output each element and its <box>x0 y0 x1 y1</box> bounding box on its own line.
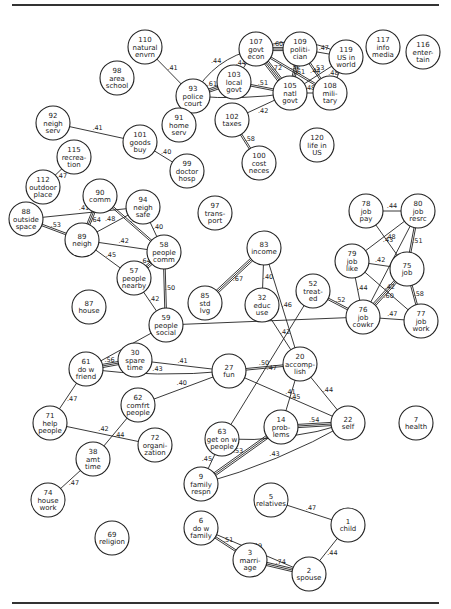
node-label: friend <box>76 373 96 381</box>
edge-weight-label: .60 <box>384 292 394 300</box>
node-label: respn <box>191 488 211 496</box>
node-103: 103localgovt <box>217 65 251 99</box>
node-label: people <box>210 443 234 451</box>
node-94: 94neighsafe <box>126 190 160 224</box>
edge-weight-label: .42 <box>98 425 108 433</box>
edge-weight-label: .74 <box>275 558 285 566</box>
node-label: cowkr <box>353 321 374 329</box>
edge-weight-label: .40 <box>153 223 163 231</box>
edge-weight-label: .40 <box>177 379 187 387</box>
edge-weight-label: .51 <box>258 79 268 87</box>
edge-weight-label: .51 <box>412 237 422 245</box>
edge-weight-label: .52 <box>335 296 345 304</box>
node-label: media <box>372 51 394 59</box>
node-label: US <box>312 149 322 157</box>
edge-weight-label: .44 <box>310 67 320 75</box>
node-92: 92neighserv <box>36 106 70 140</box>
node-59: 59peoplesocial <box>149 308 183 342</box>
node-1: 1child <box>331 508 365 542</box>
edge-weight-label: .58 <box>245 135 255 143</box>
node-69: 69religion <box>95 521 129 555</box>
edge-weight-label: .56 <box>104 356 114 364</box>
node-27: 27fun <box>212 354 246 388</box>
node-20: 20accomp-lish <box>283 347 317 381</box>
node-6: 6do wfamily <box>184 511 218 545</box>
edge-weight-label: .44 <box>327 549 337 557</box>
node-label: serv <box>172 129 187 137</box>
node-115: 115recrea-tion <box>57 140 91 174</box>
node-89: 89neigh <box>65 223 99 257</box>
node-91: 91homeserv <box>162 108 196 142</box>
node-80: 80jobresrc <box>401 194 435 228</box>
node-label: ed <box>309 295 318 303</box>
node-label: work <box>40 504 58 512</box>
node-label: time <box>85 463 101 471</box>
node-label: safe <box>136 211 151 219</box>
node-76: 76jobcowkr <box>346 300 380 334</box>
node-3: 3marri-age <box>233 543 267 577</box>
node-label: econ <box>248 53 265 61</box>
edge-weight-label: .58 <box>414 290 424 298</box>
node-label: social <box>156 329 176 337</box>
edge-weight-label: .48 <box>105 215 115 223</box>
node-label: health <box>405 423 427 431</box>
node-label: use <box>256 309 268 317</box>
node-label: fun <box>223 371 234 379</box>
edge-weight-label: .44 <box>323 386 333 394</box>
node-117: 117infomedia <box>366 30 400 64</box>
node-label: child <box>340 525 357 533</box>
node-120: 120life inUS <box>300 128 334 162</box>
node-14: 14prob-lems <box>264 410 298 444</box>
node-72: 72organi-zation <box>138 428 172 462</box>
node-116: 116enter-tain <box>406 35 440 69</box>
edge-weight-label: .40 <box>161 148 171 156</box>
node-label: place <box>34 191 53 199</box>
node-99: 99doctorhosp <box>170 154 204 188</box>
edge-weight-label: .47 <box>306 504 316 512</box>
edge-weight-label: .43 <box>152 365 162 373</box>
edge-weight-label: .47 <box>57 172 67 180</box>
edge-weight-label: .42 <box>280 328 290 336</box>
node-2: 2spouse <box>292 557 326 591</box>
edge-weight-label: .45 <box>290 393 300 401</box>
node-label: people <box>126 409 150 417</box>
node-layer: 110naturalenvrn98areaschool93policecourt… <box>9 30 440 591</box>
edge-weight-label: .41 <box>92 124 102 132</box>
node-109: 109politi-cian <box>283 32 317 66</box>
node-label: envrn <box>135 51 155 59</box>
node-79: 79joblike <box>335 244 369 278</box>
node-label: house <box>78 307 99 315</box>
node-75: 75job <box>390 252 424 286</box>
node-112: 112outdoorplace <box>26 170 60 204</box>
node-97: 97trans-port <box>198 196 232 230</box>
node-label: school <box>106 82 128 90</box>
node-22: 22self <box>331 406 365 440</box>
node-83: 83income <box>247 231 281 265</box>
node-label: port <box>208 217 223 225</box>
node-label: spouse <box>297 574 322 582</box>
node-101: 101goodsbuy <box>123 125 157 159</box>
network-diagram: .41.44.61.45.44.51.60.72.52.40.61.53.47.… <box>0 0 451 609</box>
node-7: 7health <box>399 406 433 440</box>
node-63: 63get on wpeople <box>205 422 239 456</box>
node-61: 61do wfriend <box>69 352 103 386</box>
node-38: 38amttime <box>76 442 110 476</box>
edge-weight-label: .42 <box>375 256 385 264</box>
node-label: comm <box>153 256 175 264</box>
node-label: age <box>243 564 256 572</box>
node-9: 9familyrespn <box>184 467 218 501</box>
edge-weight-label: .50 <box>259 359 269 367</box>
node-108: 108mili-tary <box>313 76 347 110</box>
edge-weight-label: .45 <box>106 251 116 259</box>
node-label: neces <box>249 167 270 175</box>
node-label: time <box>127 364 143 372</box>
node-label: neigh <box>72 240 92 248</box>
node-label: people <box>38 427 62 435</box>
node-102: 102taxes <box>215 103 249 137</box>
edge-weight-label: .47 <box>67 395 77 403</box>
node-74: 74housework <box>31 483 65 517</box>
node-label: court <box>184 100 202 108</box>
node-label: like <box>346 265 358 273</box>
edge-weight-label: .44 <box>114 431 124 439</box>
edge-weight-label: .42 <box>119 237 129 245</box>
